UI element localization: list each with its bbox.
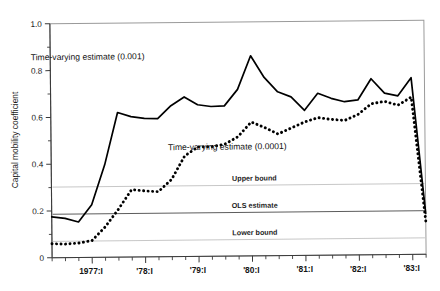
reference-line <box>53 238 425 242</box>
y-tick-label: 0.2 <box>32 207 44 216</box>
x-tick-label: '82:I <box>350 264 366 274</box>
series-annotations: Time-varying estimate (0.001)Time-varyin… <box>31 50 287 154</box>
series-line-dotted <box>51 97 426 244</box>
y-tick-label: 0 <box>40 254 45 263</box>
reference-line-label: Lower bound <box>232 228 277 237</box>
reference-line-label: Upper bound <box>232 173 277 182</box>
x-tick-label: '80:I <box>243 265 259 275</box>
y-axis-title: Capital mobility coefficient <box>10 91 20 188</box>
reference-line <box>52 184 424 188</box>
x-tick-label: '83:I <box>403 263 419 273</box>
reference-line-labels: Upper boundOLS estimateLower bound <box>231 173 278 237</box>
y-tick-label: 1.0 <box>30 20 42 29</box>
reference-line <box>53 211 425 215</box>
y-tick-label: 0.6 <box>31 113 43 122</box>
x-tick-label: '81:I <box>297 264 313 274</box>
x-tick-label: '79:I <box>190 265 206 275</box>
y-tick-label: 0.8 <box>31 67 43 76</box>
x-tick-label: 1977:I <box>79 266 103 276</box>
y-tick-label: 0.4 <box>32 160 44 169</box>
capital-mobility-chart: 00.20.40.60.81.0 Upper boundOLS estimate… <box>0 0 440 291</box>
figure-container: 00.20.40.60.81.0 Upper boundOLS estimate… <box>0 0 440 291</box>
plot-skew-group: 00.20.40.60.81.0 Upper boundOLS estimate… <box>30 16 426 264</box>
x-tick-label: '78:I <box>136 266 152 276</box>
series-annotation-label: Time-varying estimate (0.001) <box>31 51 145 62</box>
series-annotation-label: Time-varying estimate (0.0001) <box>168 141 287 152</box>
reference-line-label: OLS estimate <box>232 201 278 210</box>
x-axis-tick-labels: 1977:I'78:I'79:I'80:I'81:I'82:I'83:I <box>79 263 420 276</box>
